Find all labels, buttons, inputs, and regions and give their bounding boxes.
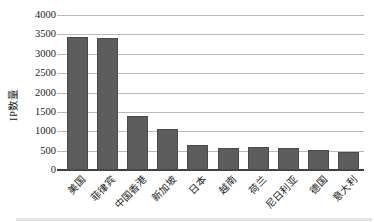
bar-德国 [308, 150, 329, 170]
bar-越南 [218, 148, 239, 170]
x-axis-labels: 美国菲律宾中国香港新加坡日本越南荷兰尼日利亚德国意大利 [62, 172, 364, 222]
bar-意大利 [338, 152, 359, 170]
y-tick-label-3000: 3000 [14, 48, 56, 60]
y-tick-label-1000: 1000 [14, 125, 56, 137]
scan-artifact-strip [16, 218, 372, 221]
y-tick-label-2000: 2000 [14, 87, 56, 99]
y-tick-label-1500: 1500 [14, 106, 56, 118]
bar-新加坡 [157, 129, 178, 170]
gridline-4000 [57, 15, 364, 16]
y-tick-label-2500: 2500 [14, 67, 56, 79]
bar-中国香港 [127, 116, 148, 170]
y-tick-label-3500: 3500 [14, 28, 56, 40]
bar-荷兰 [248, 147, 269, 170]
gridline-3500 [57, 34, 364, 35]
ip-count-bar-chart: IP数量 05001000150020002500300035004000 美国… [0, 0, 374, 222]
y-tick-label-500: 500 [14, 145, 56, 157]
plot-area: 05001000150020002500300035004000 [62, 15, 364, 170]
bar-日本 [187, 145, 208, 170]
bar-菲律宾 [97, 38, 118, 170]
bar-美国 [67, 37, 88, 170]
bar-尼日利亚 [278, 148, 299, 170]
y-tick-label-4000: 4000 [14, 9, 56, 21]
y-tick-label-0: 0 [14, 164, 56, 176]
